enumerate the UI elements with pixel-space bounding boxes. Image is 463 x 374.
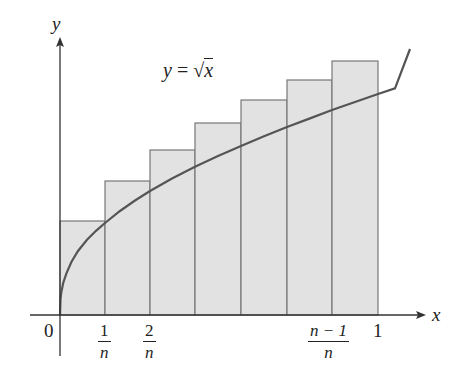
function-eq: = [172, 59, 193, 81]
rectangle-2 [105, 181, 150, 315]
rectangles [60, 61, 378, 315]
rectangle-5 [241, 100, 287, 315]
rectangle-1 [60, 221, 105, 315]
tick-den: n [324, 344, 333, 361]
tick-num: 2 [143, 322, 156, 339]
sqrt-icon: √ [193, 59, 204, 81]
rectangle-7 [332, 61, 378, 315]
tick-num: 1 [98, 322, 111, 339]
fraction-bar [143, 341, 156, 342]
rectangle-4 [195, 123, 241, 315]
tick-den: n [100, 344, 109, 361]
tick-label-1-over-n: 1 n [98, 322, 111, 361]
function-label: y = √x [163, 60, 213, 80]
tick-label-2-over-n: 2 n [143, 322, 156, 361]
tick-label-n-minus-1-over-n: n − 1 n [308, 322, 349, 361]
rectangle-6 [287, 80, 332, 315]
x-axis-label: x [432, 305, 440, 324]
y-axis-label: y [52, 14, 60, 33]
function-lhs: y [163, 59, 172, 81]
fraction-bar [308, 341, 349, 342]
tick-label-0: 0 [44, 321, 54, 340]
tick-label-1: 1 [373, 321, 383, 340]
rectangle-3 [150, 150, 195, 315]
fraction-bar [98, 341, 111, 342]
tick-den: n [145, 344, 154, 361]
tick-num: n − 1 [308, 322, 349, 339]
riemann-diagram [0, 0, 463, 374]
function-arg: x [204, 58, 213, 81]
